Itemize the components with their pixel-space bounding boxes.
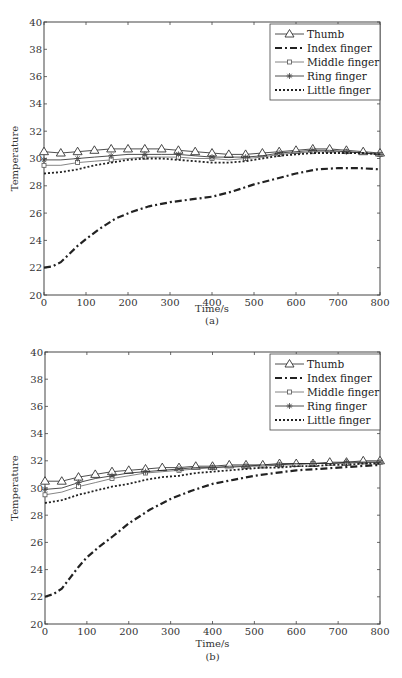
series-line <box>44 168 380 268</box>
x-tick-label: 600 <box>286 297 305 308</box>
y-axis-label: Temperature <box>9 126 20 192</box>
x-tick-label: 100 <box>77 626 96 637</box>
y-tick-label: 24 <box>29 235 42 246</box>
square-marker <box>42 163 46 167</box>
x-tick-label: 100 <box>76 297 95 308</box>
legend-label: Middle finger <box>307 386 380 398</box>
star-marker <box>287 73 293 79</box>
y-tick-label: 22 <box>30 591 43 602</box>
x-tick-label: 0 <box>41 297 47 308</box>
square-marker <box>288 60 292 64</box>
y-tick-label: 22 <box>29 262 42 273</box>
panel-caption: (a) <box>205 315 219 326</box>
chart-panel-a: 2022242628303234363840010020030040050060… <box>9 17 390 327</box>
y-tick-label: 24 <box>30 564 43 575</box>
star-marker <box>109 473 115 479</box>
triangle-marker <box>73 147 82 155</box>
square-marker <box>43 493 47 497</box>
triangle-marker <box>158 463 167 471</box>
x-tick-label: 800 <box>370 626 389 637</box>
series-line <box>45 465 380 597</box>
y-axis-label: Temperature <box>9 455 20 521</box>
star-marker <box>41 157 47 163</box>
y-tick-label: 26 <box>29 208 42 219</box>
x-axis-label: Time/s <box>196 638 230 649</box>
star-marker <box>176 466 182 472</box>
panel-caption: (b) <box>205 651 219 662</box>
triangle-marker <box>90 146 99 154</box>
x-tick-label: 700 <box>328 297 347 308</box>
triangle-marker <box>56 149 65 157</box>
star-marker <box>75 156 81 162</box>
triangle-marker <box>41 477 50 485</box>
series-index-finger <box>45 465 380 597</box>
y-tick-label: 40 <box>29 17 42 28</box>
y-tick-label: 34 <box>29 98 42 109</box>
triangle-marker <box>140 144 149 152</box>
legend-label: Ring finger <box>307 400 368 412</box>
series-index-finger <box>44 168 380 268</box>
x-tick-label: 200 <box>119 626 138 637</box>
y-tick-label: 28 <box>30 510 43 521</box>
star-marker <box>76 480 82 486</box>
star-marker <box>142 151 148 157</box>
x-tick-label: 0 <box>42 626 48 637</box>
x-tick-label: 800 <box>370 297 389 308</box>
star-marker <box>42 486 48 492</box>
y-tick-label: 36 <box>29 71 42 82</box>
triangle-marker <box>157 144 166 152</box>
legend-label: Index finger <box>307 42 373 54</box>
legend-label: Thumb <box>307 28 344 40</box>
x-tick-label: 700 <box>329 626 348 637</box>
star-marker <box>243 154 249 160</box>
star-marker <box>210 465 216 471</box>
x-tick-label: 500 <box>245 626 264 637</box>
triangle-marker <box>224 150 233 158</box>
star-marker <box>377 151 383 157</box>
legend-label: Little finger <box>307 414 371 426</box>
x-tick-label: 300 <box>160 297 179 308</box>
y-tick-label: 38 <box>30 374 43 385</box>
legend: ThumbIndex fingerMiddle fingerRing finge… <box>270 24 380 100</box>
legend-label: Thumb <box>307 358 344 370</box>
y-tick-label: 36 <box>30 401 43 412</box>
legend-label: Middle finger <box>307 56 380 68</box>
figure: 2022242628303234363840010020030040050060… <box>0 0 402 678</box>
x-tick-label: 200 <box>118 297 137 308</box>
legend-label: Little finger <box>307 84 371 96</box>
triangle-marker <box>124 144 133 152</box>
y-tick-label: 26 <box>30 537 43 548</box>
y-tick-label: 40 <box>30 347 43 358</box>
legend: ThumbIndex fingerMiddle fingerRing finge… <box>270 354 380 430</box>
x-tick-label: 400 <box>203 626 222 637</box>
x-tick-label: 600 <box>287 626 306 637</box>
x-tick-label: 500 <box>244 297 263 308</box>
x-axis-label: Time/s <box>195 303 229 314</box>
legend-label: Ring finger <box>307 70 368 82</box>
legend-label: Index finger <box>307 372 373 384</box>
y-tick-label: 38 <box>29 44 42 55</box>
chart-panel-b: 2022242628303234363840010020030040050060… <box>9 347 390 663</box>
x-tick-label: 300 <box>161 626 180 637</box>
square-marker <box>288 390 292 394</box>
y-tick-label: 32 <box>30 455 43 466</box>
triangle-marker <box>107 144 116 152</box>
triangle-marker <box>191 147 200 155</box>
star-marker <box>143 469 149 475</box>
star-marker <box>209 154 215 160</box>
y-tick-label: 32 <box>29 126 42 137</box>
y-tick-label: 28 <box>29 180 42 191</box>
triangle-marker <box>124 466 133 474</box>
triangle-marker <box>40 147 49 155</box>
y-tick-label: 34 <box>30 428 43 439</box>
star-marker <box>108 153 114 159</box>
star-marker <box>175 151 181 157</box>
star-marker <box>287 403 293 409</box>
